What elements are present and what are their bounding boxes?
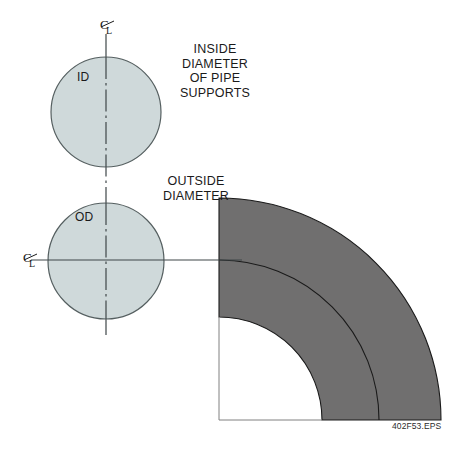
centerline-symbol-top: C L <box>99 17 121 37</box>
centerline-glyph-icon: C L <box>22 250 44 270</box>
inside-diameter-circle-label: ID <box>77 70 89 84</box>
pipe-support-diagram: C L C L INSIDE DIAMETER OF PIPE SUPPORTS… <box>0 0 460 453</box>
svg-text:L: L <box>29 258 35 269</box>
outside-diameter-circle-group <box>48 203 164 319</box>
centerline-glyph-icon: C L <box>99 17 121 37</box>
outside-diameter-circle-label: OD <box>75 210 93 224</box>
centerline-symbol-left: C L <box>22 250 44 270</box>
diagram-canvas <box>0 0 460 453</box>
figure-source-caption: 402F53.EPS <box>392 421 441 431</box>
svg-text:L: L <box>106 25 112 36</box>
elbow-annulus-fill <box>219 198 441 420</box>
inside-diameter-circle-group <box>51 57 161 167</box>
pipe-elbow-group <box>219 198 441 420</box>
